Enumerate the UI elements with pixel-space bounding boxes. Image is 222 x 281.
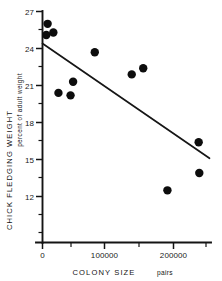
x-axis-tick-labels: 0 100000 200000 xyxy=(40,251,187,260)
x-axis-unit-label: pairs xyxy=(157,269,173,277)
x-tick-label-100000: 100000 xyxy=(91,251,119,260)
y-tick-label-18: 18 xyxy=(25,119,35,128)
data-point xyxy=(43,20,51,28)
y-tick-label-21: 21 xyxy=(25,82,35,91)
data-point xyxy=(69,78,77,86)
y-tick-label-24: 24 xyxy=(25,45,35,54)
data-point xyxy=(91,48,99,56)
data-point xyxy=(139,64,147,72)
x-tick-label-200000: 200000 xyxy=(160,251,188,260)
x-axis-title: COLONY SIZE xyxy=(72,268,135,277)
y-axis-title: CHICK FLEDGING WEIGHT xyxy=(5,110,14,230)
x-tick-label-0: 0 xyxy=(40,251,45,260)
y-axis-title-group: CHICK FLEDGING WEIGHT percent of adult w… xyxy=(5,73,24,230)
data-point xyxy=(66,91,74,99)
y-axis-ticks xyxy=(36,12,43,233)
regression-line xyxy=(43,44,210,159)
data-point xyxy=(128,70,136,78)
x-axis-title-group: COLONY SIZE pairs xyxy=(72,268,173,277)
y-tick-label-15: 15 xyxy=(25,156,35,165)
scatter-chart-figure: 27 24 21 18 15 12 0 100000 200000 xyxy=(0,0,222,281)
y-axis-subtitle: percent of adult weight xyxy=(16,73,24,147)
x-axis-ticks xyxy=(43,243,207,250)
data-point xyxy=(194,138,202,146)
y-tick-label-12: 12 xyxy=(25,193,35,202)
chart-canvas: 27 24 21 18 15 12 0 100000 200000 xyxy=(0,0,222,281)
axes-group xyxy=(36,11,211,243)
data-point xyxy=(54,89,62,97)
y-axis-tick-labels: 27 24 21 18 15 12 xyxy=(25,8,35,202)
data-point xyxy=(195,169,203,177)
data-point xyxy=(49,28,57,36)
data-point xyxy=(163,186,171,194)
y-tick-label-27: 27 xyxy=(25,8,35,17)
data-points-group xyxy=(42,20,203,195)
